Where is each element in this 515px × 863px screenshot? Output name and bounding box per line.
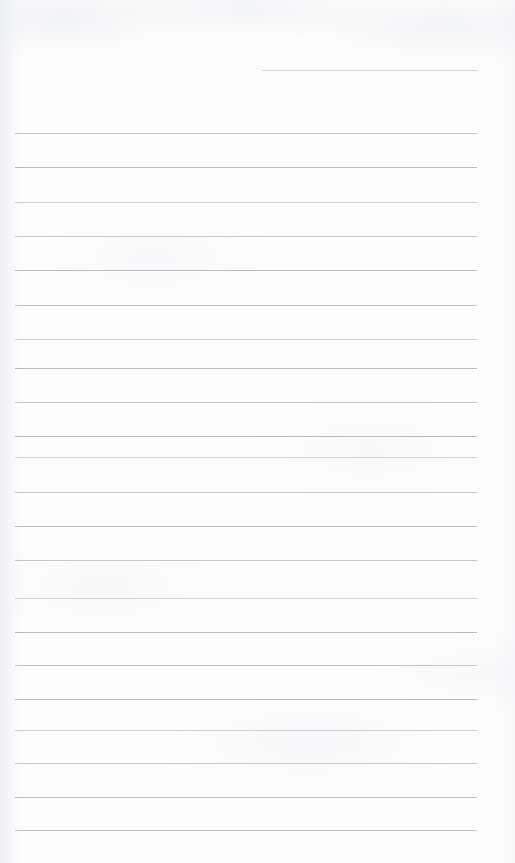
rule-line: [15, 665, 477, 666]
rule-line: [15, 763, 477, 764]
rule-line: [15, 730, 477, 731]
rule-line: [15, 797, 477, 798]
rule-line: [15, 402, 477, 403]
lined-paper-page: [0, 0, 515, 863]
rule-line: [15, 526, 477, 527]
rule-line: [15, 560, 477, 561]
rule-line: [15, 830, 477, 831]
rule-line: [15, 632, 477, 633]
rule-line: [15, 167, 477, 168]
rule-line: [15, 436, 477, 437]
rule-line: [15, 202, 477, 203]
rule-line: [15, 368, 477, 369]
rule-line: [15, 270, 477, 271]
rule-line: [15, 492, 477, 493]
ruling-layer: [0, 0, 515, 863]
rule-line: [15, 236, 477, 237]
rule-line: [15, 133, 477, 134]
rule-line-partial: [262, 70, 478, 71]
rule-line: [15, 598, 477, 599]
rule-line: [15, 305, 477, 306]
rule-line: [15, 457, 477, 458]
rule-line: [15, 339, 477, 340]
rule-line: [15, 699, 477, 700]
